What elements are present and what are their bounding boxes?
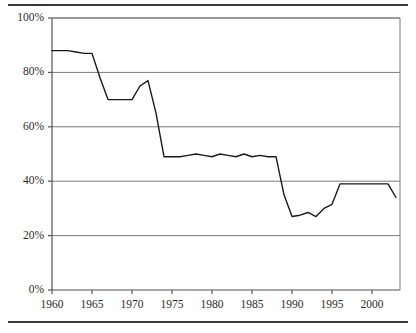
- series-line-1: [52, 51, 396, 217]
- data-series-line: [52, 51, 396, 217]
- chart-figure: 0%20%40%60%80%100% 196019651970197519801…: [0, 0, 416, 333]
- line-chart-plot: [0, 0, 416, 333]
- axis-lines: [52, 18, 400, 290]
- grid-lines: [52, 18, 400, 236]
